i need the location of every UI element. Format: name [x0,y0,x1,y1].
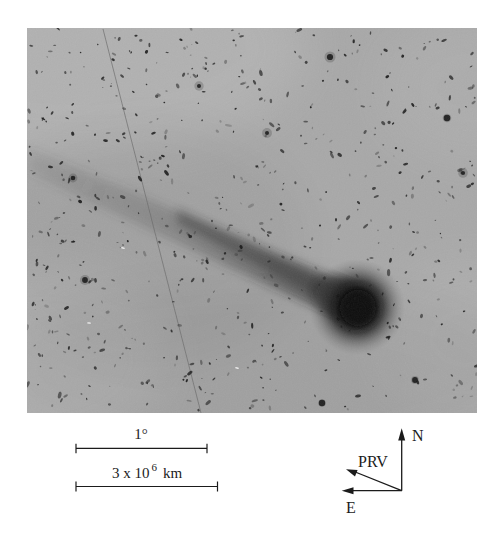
scale-bar-degrees: 1° [76,426,207,453]
prv-arrow-line [354,472,402,491]
scale-bar-km: 3 x 106km [76,461,218,492]
east-arrowhead-icon [342,487,354,494]
scale-bar-km-exponent: 6 [152,461,158,473]
scale-bar-km-label: 3 x 106km [112,461,183,481]
north-arrowhead-icon [398,428,405,440]
east-label: E [346,499,356,516]
prv-label: PRV [358,453,388,470]
photo-svg [27,28,477,413]
prv-arrowhead-icon [346,469,358,476]
compass: N E PRV [342,427,424,516]
figure-page: 1° 3 x 106km N E PRV [0,0,496,538]
scale-bar-km-base: 3 x 10 [112,465,150,481]
film-grain [27,28,477,413]
north-label: N [412,427,424,444]
scale-bar-km-unit: km [163,465,183,481]
comet-photograph [27,28,477,413]
figure-annotations: 1° 3 x 106km N E PRV [0,413,496,538]
scale-bar-degrees-label: 1° [134,426,148,442]
